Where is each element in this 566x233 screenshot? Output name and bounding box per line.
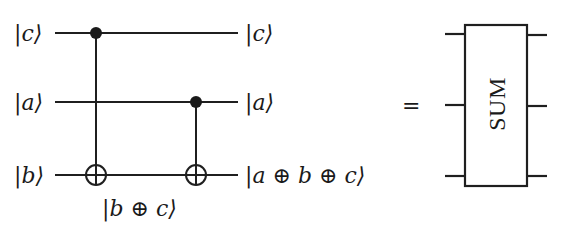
- equals-sign: =: [402, 93, 420, 118]
- cnot-gate-2: [186, 96, 206, 185]
- input-label-b: |b⟩: [14, 163, 44, 189]
- intermediate-label: |b ⊕ c⟩: [102, 196, 177, 222]
- cnot-gate-1: [86, 27, 106, 185]
- output-label-a: |a⟩: [245, 90, 274, 116]
- control-dot-icon: [190, 96, 202, 108]
- input-label-a: |a⟩: [14, 90, 43, 116]
- control-dot-icon: [90, 27, 102, 39]
- output-label-sum: |a ⊕ b ⊕ c⟩: [245, 163, 365, 189]
- output-label-c: |c⟩: [245, 21, 273, 47]
- target-xor-icon: [86, 165, 106, 185]
- input-label-c: |c⟩: [14, 21, 42, 47]
- sum-circuit-diagram: |c⟩ |a⟩ |b⟩ |b ⊕ c⟩ |c⟩ |a⟩ |a ⊕ b ⊕ c⟩ …: [0, 0, 566, 233]
- sum-block: SUM: [445, 25, 547, 186]
- sum-block-label: SUM: [484, 77, 510, 131]
- target-xor-icon: [186, 165, 206, 185]
